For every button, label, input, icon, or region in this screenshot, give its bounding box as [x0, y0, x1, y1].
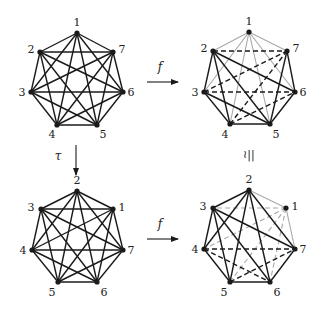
edge-2-5: [230, 190, 249, 282]
edge-5-7: [230, 249, 295, 282]
node-label-4: 4: [192, 243, 199, 256]
node-2: [246, 187, 251, 192]
graph-top-left: 1234567: [19, 16, 135, 141]
graphs-layer: 1234567123456712345671234567: [19, 15, 307, 299]
node-7: [120, 247, 125, 252]
node-label-3: 3: [200, 200, 207, 213]
node-label-2: 2: [74, 174, 81, 187]
arrow-label-bottom-f: f: [157, 217, 165, 231]
edge-1-2: [213, 32, 249, 51]
arrow-label-tau: τ: [55, 149, 62, 163]
graph-diagram: 1234567123456712345671234567 ffτ ≀||: [0, 0, 322, 312]
edge-1-4: [204, 208, 286, 249]
node-label-4: 4: [20, 244, 27, 257]
edge-1-7: [249, 32, 287, 51]
node-3: [38, 206, 43, 211]
node-label-5: 5: [273, 128, 280, 141]
node-4: [54, 122, 59, 127]
node-label-1: 1: [74, 16, 81, 29]
node-label-5: 5: [221, 286, 228, 299]
node-label-6: 6: [300, 86, 307, 99]
node-5: [227, 279, 232, 284]
node-5: [94, 122, 99, 127]
node-label-7: 7: [119, 43, 126, 56]
node-2: [37, 49, 42, 54]
node-label-1: 1: [119, 201, 126, 214]
node-4: [29, 247, 34, 252]
edge-4-6: [230, 92, 295, 124]
node-2: [74, 188, 79, 193]
node-label-3: 3: [192, 86, 199, 99]
edge-4-6: [57, 92, 123, 125]
node-7: [284, 48, 289, 53]
node-label-3: 3: [28, 201, 35, 214]
node-6: [292, 89, 297, 94]
node-label-7: 7: [293, 42, 300, 55]
node-label-5: 5: [100, 128, 107, 141]
edge-1-2: [40, 33, 77, 52]
node-label-3: 3: [19, 86, 26, 99]
node-5: [55, 279, 60, 284]
node-label-2: 2: [201, 42, 208, 55]
node-1: [110, 206, 115, 211]
edge-2-3: [213, 190, 249, 208]
edge-6-7: [287, 51, 295, 92]
node-7: [110, 49, 115, 54]
arrow-label-top-f: f: [157, 60, 165, 74]
node-5: [267, 121, 272, 126]
node-3: [210, 205, 215, 210]
edge-3-5: [31, 92, 97, 125]
node-label-4: 4: [49, 128, 56, 141]
node-label-5: 5: [49, 286, 56, 299]
node-3: [28, 89, 33, 94]
edge-2-3: [41, 191, 77, 209]
edge-2-6: [40, 52, 123, 92]
node-label-1: 1: [292, 200, 299, 213]
graph-top-right: 1234567: [192, 15, 307, 141]
node-3: [201, 89, 206, 94]
edge-1-7: [77, 33, 113, 52]
node-label-6: 6: [274, 286, 281, 299]
node-label-7: 7: [128, 244, 135, 257]
node-6: [267, 279, 272, 284]
edge-1-2: [249, 190, 286, 208]
node-1: [283, 205, 288, 210]
node-label-2: 2: [246, 173, 253, 186]
isomorphism-symbol: ≀||: [243, 148, 254, 162]
node-4: [227, 121, 232, 126]
node-label-1: 1: [246, 15, 253, 28]
node-7: [292, 246, 297, 251]
node-4: [201, 246, 206, 251]
node-label-2: 2: [28, 43, 35, 56]
graph-bottom-right: 1234567: [192, 173, 307, 299]
node-label-7: 7: [300, 243, 307, 256]
node-label-6: 6: [101, 286, 108, 299]
node-1: [74, 30, 79, 35]
node-6: [120, 89, 125, 94]
edge-4-6: [32, 250, 97, 282]
node-label-6: 6: [128, 86, 135, 99]
node-2: [210, 48, 215, 53]
edge-3-7: [204, 51, 287, 92]
graph-bottom-left: 1234567: [20, 174, 135, 299]
edge-4-6: [204, 249, 270, 282]
edge-3-5: [204, 92, 270, 124]
edge-1-2: [77, 191, 113, 209]
node-6: [94, 279, 99, 284]
node-label-4: 4: [222, 128, 229, 141]
node-1: [246, 29, 251, 34]
